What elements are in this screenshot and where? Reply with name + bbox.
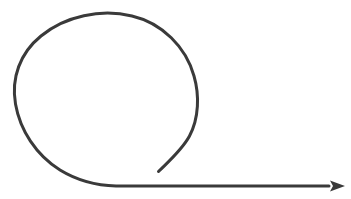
loop-arrow-graphic: A single continuous line forming a large…	[0, 0, 351, 199]
arrowhead	[330, 181, 345, 192]
spiral-loop-path	[14, 13, 329, 186]
diagram-canvas: A single continuous line forming a large…	[0, 0, 351, 199]
